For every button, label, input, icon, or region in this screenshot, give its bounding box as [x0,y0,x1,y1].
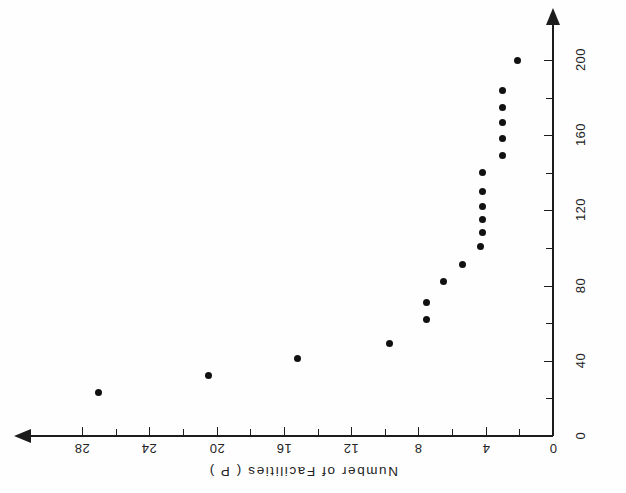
x-tick-label: 12 [334,441,368,456]
x-tick-major [284,427,285,436]
data-point [499,135,506,142]
data-point [499,152,506,159]
data-point [499,104,506,111]
x-tick-minor [183,429,184,436]
data-point [479,188,486,195]
x-tick-major [149,427,150,436]
scatter-series [0,0,626,493]
y-tick-major [544,436,553,437]
y-tick-major [544,210,553,211]
data-point [423,299,430,306]
x-tick-label: 8 [401,441,435,456]
data-point [386,340,393,347]
x-tick-major [217,427,218,436]
x-tick-minor [385,429,386,436]
data-point [499,87,506,94]
data-point [205,372,212,379]
data-point [479,203,486,210]
x-tick-minor [519,429,520,436]
x-tick-label: 28 [65,441,99,456]
y-tick-minor [546,98,553,99]
x-tick-major [351,427,352,436]
x-tick-major [553,427,554,436]
x-axis-title: Number of Facilities ( P ) [113,464,493,479]
data-point [440,278,447,285]
x-tick-label: 16 [267,441,301,456]
y-tick-major [544,361,553,362]
data-point [294,355,301,362]
data-point [499,119,506,126]
y-tick-major [544,60,553,61]
y-tick-label: 80 [573,265,588,305]
x-tick-label: 0 [536,441,570,456]
y-tick-minor [546,398,553,399]
x-tick-minor [116,429,117,436]
y-tick-label: 120 [573,190,588,230]
x-tick-label: 4 [469,441,503,456]
x-tick-major [486,427,487,436]
x-tick-minor [250,429,251,436]
y-tick-minor [546,173,553,174]
y-tick-label: 200 [573,40,588,80]
data-point [459,261,466,268]
data-point [479,169,486,176]
x-tick-major [418,427,419,436]
x-tick-minor [452,429,453,436]
y-tick-label: 0 [573,416,588,456]
x-tick-major [82,427,83,436]
y-tick-label: 40 [573,340,588,380]
y-tick-minor [546,323,553,324]
data-point [479,216,486,223]
data-point [423,316,430,323]
y-tick-label: 160 [573,115,588,155]
y-tick-major [544,286,553,287]
y-tick-minor [546,248,553,249]
x-tick-minor [318,429,319,436]
x-axis-arrowhead [14,429,31,443]
chart-figure: 0481216202428 04080120160200 Number of F… [0,0,626,493]
x-axis-line [30,435,553,437]
y-tick-major [544,135,553,136]
y-axis-arrowhead [546,8,560,25]
data-point [95,389,102,396]
y-axis-line [552,22,554,436]
x-tick-label: 24 [132,441,166,456]
data-point [514,57,521,64]
data-point [479,229,486,236]
data-point [477,243,484,250]
x-tick-label: 20 [200,441,234,456]
